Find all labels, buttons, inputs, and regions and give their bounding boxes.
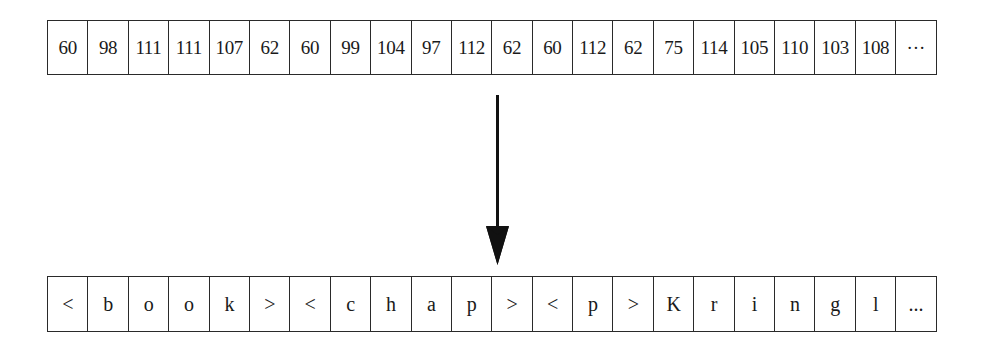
byte-cell: 60 bbox=[533, 21, 573, 74]
char-cell: k bbox=[210, 277, 250, 331]
char-cell: < bbox=[290, 277, 330, 331]
char-cell: a bbox=[412, 277, 452, 331]
char-cell-ellipsis: ... bbox=[896, 277, 936, 331]
byte-cell: 107 bbox=[210, 21, 250, 74]
char-cell: h bbox=[371, 277, 411, 331]
byte-cell: 110 bbox=[775, 21, 815, 74]
byte-cell: 60 bbox=[48, 21, 88, 74]
char-cell: o bbox=[169, 277, 209, 331]
char-cell: r bbox=[694, 277, 734, 331]
char-cell: b bbox=[88, 277, 128, 331]
char-cell: K bbox=[654, 277, 694, 331]
byte-cell: 104 bbox=[371, 21, 411, 74]
character-row: < b o o k > < c h a p > < p > K r i n g … bbox=[47, 276, 937, 332]
byte-cell: 108 bbox=[856, 21, 896, 74]
byte-value-row: 60 98 111 111 107 62 60 99 104 97 112 62… bbox=[47, 20, 937, 75]
char-cell: < bbox=[533, 277, 573, 331]
char-cell: g bbox=[815, 277, 855, 331]
byte-cell: 62 bbox=[492, 21, 532, 74]
char-cell: > bbox=[250, 277, 290, 331]
byte-cell: 99 bbox=[331, 21, 371, 74]
arrow-down-icon bbox=[480, 95, 516, 267]
byte-cell: 112 bbox=[573, 21, 613, 74]
byte-cell: 103 bbox=[815, 21, 855, 74]
byte-cell: 112 bbox=[452, 21, 492, 74]
char-cell: i bbox=[735, 277, 775, 331]
char-cell: p bbox=[452, 277, 492, 331]
char-cell: > bbox=[492, 277, 532, 331]
byte-cell: 62 bbox=[613, 21, 653, 74]
byte-cell: 75 bbox=[654, 21, 694, 74]
byte-cell: 111 bbox=[169, 21, 209, 74]
byte-cell: 98 bbox=[88, 21, 128, 74]
byte-cell: 111 bbox=[129, 21, 169, 74]
char-cell: < bbox=[48, 277, 88, 331]
char-cell: c bbox=[331, 277, 371, 331]
char-cell: p bbox=[573, 277, 613, 331]
char-cell: o bbox=[129, 277, 169, 331]
byte-cell: 105 bbox=[735, 21, 775, 74]
byte-cell-ellipsis: ··· bbox=[896, 21, 936, 74]
char-cell: n bbox=[775, 277, 815, 331]
char-cell: > bbox=[613, 277, 653, 331]
byte-cell: 114 bbox=[694, 21, 734, 74]
char-cell: l bbox=[856, 277, 896, 331]
byte-cell: 60 bbox=[290, 21, 330, 74]
byte-cell: 62 bbox=[250, 21, 290, 74]
byte-cell: 97 bbox=[412, 21, 452, 74]
